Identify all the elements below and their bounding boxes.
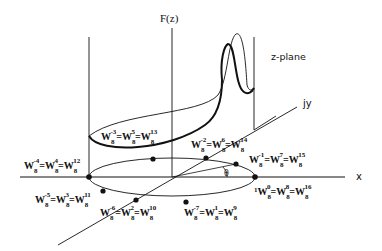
- root-dot-k15: [233, 161, 238, 166]
- root-label-k14: W8-2=W86=W814: [191, 136, 248, 154]
- root-label-k11: W8-5=W83=W811: [35, 191, 91, 209]
- fz-label: F(z): [160, 12, 179, 25]
- root-label-k0: 1W80=W88=W816: [254, 183, 312, 201]
- svg-text:W8-6=W82=W810: W8-6=W82=W810: [100, 204, 157, 222]
- root-label-k10: W8-6=W82=W810: [100, 204, 157, 222]
- svg-text:1W80=W88=W816: 1W80=W88=W816: [254, 183, 312, 201]
- root-label-k9: W8-7=W81=W89: [184, 204, 238, 222]
- svg-text:W8-5=W83=W811: W8-5=W83=W811: [35, 191, 91, 209]
- svg-text:W8-1=W87=W815: W8-1=W87=W815: [249, 151, 306, 169]
- root-dot-k0: [252, 174, 258, 180]
- right-base-connector: [254, 116, 276, 130]
- z-plane-label: z-plane: [271, 51, 306, 62]
- svg-text:W8-2=W86=W814: W8-2=W86=W814: [191, 136, 248, 154]
- svg-text:W8-7=W81=W89: W8-7=W81=W89: [184, 204, 238, 222]
- root-dot-k9: [183, 199, 188, 204]
- root-label-k12: W8-4=W84=W812: [24, 157, 81, 175]
- root-dot-k12: [86, 174, 92, 180]
- root-dot-k14: [203, 155, 208, 160]
- jy-axis-label: jy: [302, 98, 312, 109]
- root-label-k15: W8-1=W87=W815: [249, 151, 306, 169]
- root-dot-k11: [100, 188, 105, 193]
- theta-label: θ: [224, 167, 229, 178]
- z-plane-diagram: F(z) z-plane x jy θ W8-3=W85=W813 W8-2=W…: [0, 0, 382, 251]
- svg-text:W8-3=W85=W813: W8-3=W85=W813: [101, 128, 158, 146]
- x-axis-label: x: [356, 171, 362, 182]
- surface-curve-back: [89, 34, 254, 136]
- svg-text:W8-4=W84=W812: W8-4=W84=W812: [24, 157, 81, 175]
- root-label-k13: W8-3=W85=W813: [101, 128, 158, 146]
- root-dot-k10: [133, 197, 138, 202]
- root-dot-k13: [150, 156, 155, 161]
